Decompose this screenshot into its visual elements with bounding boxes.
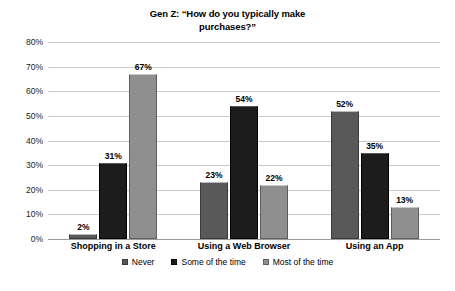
bar-value-label: 31% [93, 151, 133, 161]
bar-chart: Gen Z: “How do you typically make purcha… [0, 0, 455, 291]
y-axis-tick-label: 50% [0, 111, 43, 121]
gridline [48, 67, 440, 68]
y-axis-tick-label: 40% [0, 136, 43, 146]
bar-value-label: 67% [123, 62, 163, 72]
bar-value-label: 54% [224, 94, 264, 104]
bar-value-label: 52% [325, 99, 365, 109]
legend-item[interactable]: Never [122, 257, 155, 267]
bar [69, 234, 97, 239]
chart-legend: NeverSome of the timeMost of the time [0, 257, 455, 267]
x-axis-category-label: Shopping in a Store [48, 241, 179, 251]
x-axis-category-label: Using a Web Browser [179, 241, 310, 251]
legend-label: Never [132, 257, 155, 267]
y-axis-tick-label: 80% [0, 37, 43, 47]
legend-swatch-icon [263, 259, 269, 265]
x-axis-category-label: Using an App [309, 241, 440, 251]
gridline [48, 42, 440, 43]
legend-label: Most of the time [273, 257, 333, 267]
y-axis-tick-label: 10% [0, 209, 43, 219]
bar [331, 111, 359, 239]
y-axis-tick-label: 0% [0, 234, 43, 244]
legend-swatch-icon [122, 259, 128, 265]
y-axis-tick-label: 30% [0, 160, 43, 170]
legend-item[interactable]: Some of the time [171, 257, 245, 267]
axis-baseline [48, 239, 440, 240]
bar [391, 207, 419, 239]
y-axis-tick-label: 20% [0, 185, 43, 195]
chart-title: Gen Z: “How do you typically make purcha… [100, 8, 355, 33]
bar-value-label: 2% [63, 222, 103, 232]
legend-label: Some of the time [181, 257, 245, 267]
y-axis-tick-label: 70% [0, 62, 43, 72]
legend-item[interactable]: Most of the time [263, 257, 333, 267]
gridline [48, 91, 440, 92]
bar [260, 185, 288, 239]
bar [129, 74, 157, 239]
plot-area: 80%70%60%50%40%30%20%10%0% 2%31%67%23%54… [48, 42, 440, 239]
bar [99, 163, 127, 239]
y-axis-tick-label: 60% [0, 86, 43, 96]
bar [200, 182, 228, 239]
bar-value-label: 35% [355, 141, 395, 151]
legend-swatch-icon [171, 259, 177, 265]
bar-value-label: 22% [254, 173, 294, 183]
bar-value-label: 23% [194, 170, 234, 180]
bar-value-label: 13% [385, 195, 425, 205]
